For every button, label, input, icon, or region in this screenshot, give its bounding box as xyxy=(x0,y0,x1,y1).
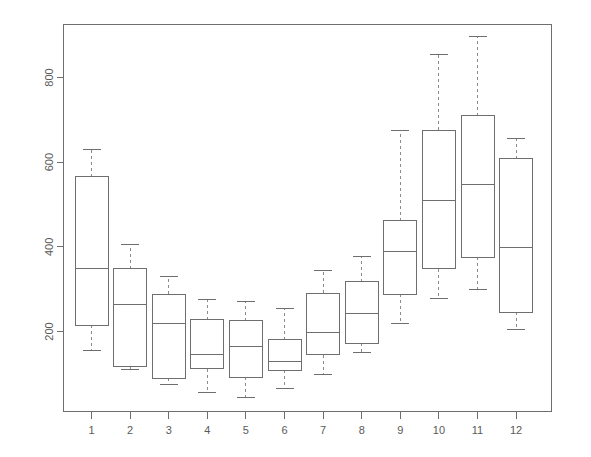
box-group xyxy=(268,308,301,388)
box-group xyxy=(114,245,147,370)
x-tick-label: 1 xyxy=(88,424,94,436)
box-iqr xyxy=(345,282,378,344)
box-group xyxy=(500,139,533,330)
box-group xyxy=(152,276,185,384)
box-iqr xyxy=(500,159,533,313)
box-group xyxy=(229,302,262,397)
plot-border xyxy=(64,25,552,412)
x-axis: 123456789101112 xyxy=(88,412,522,436)
box-iqr xyxy=(152,294,185,378)
x-tick-label: 4 xyxy=(204,424,210,436)
box-iqr xyxy=(307,293,340,354)
box-iqr xyxy=(75,177,108,325)
x-tick-label: 2 xyxy=(127,424,133,436)
box-group xyxy=(422,54,455,298)
x-tick-label: 11 xyxy=(472,424,483,436)
x-tick-label: 12 xyxy=(510,424,522,436)
y-tick-label: 800 xyxy=(43,68,55,86)
box-group xyxy=(307,270,340,375)
box-iqr xyxy=(422,130,455,268)
x-tick-label: 10 xyxy=(433,424,445,436)
y-axis: 200400600800 xyxy=(43,68,63,340)
y-tick-label: 600 xyxy=(43,153,55,171)
box-group xyxy=(191,300,224,393)
box-group xyxy=(345,256,378,353)
x-tick-label: 5 xyxy=(243,424,249,436)
boxplot-chart: 200400600800 123456789101112 xyxy=(0,0,591,457)
box-iqr xyxy=(229,321,262,377)
y-tick-label: 200 xyxy=(43,322,55,340)
x-tick-label: 3 xyxy=(166,424,172,436)
plot-frame xyxy=(64,25,552,412)
x-tick-label: 9 xyxy=(397,424,403,436)
box-iqr xyxy=(191,320,224,369)
box-iqr xyxy=(114,269,147,366)
boxplot-canvas: 200400600800 123456789101112 xyxy=(0,0,591,457)
box-group xyxy=(75,149,108,350)
box-group xyxy=(461,36,494,289)
x-tick-label: 8 xyxy=(359,424,365,436)
box-iqr xyxy=(461,116,494,258)
box-series xyxy=(75,36,533,397)
box-group xyxy=(384,130,417,323)
box-iqr xyxy=(268,340,301,370)
y-tick-label: 400 xyxy=(43,238,55,256)
box-iqr xyxy=(384,221,417,295)
x-tick-label: 7 xyxy=(320,424,326,436)
x-tick-label: 6 xyxy=(281,424,287,436)
